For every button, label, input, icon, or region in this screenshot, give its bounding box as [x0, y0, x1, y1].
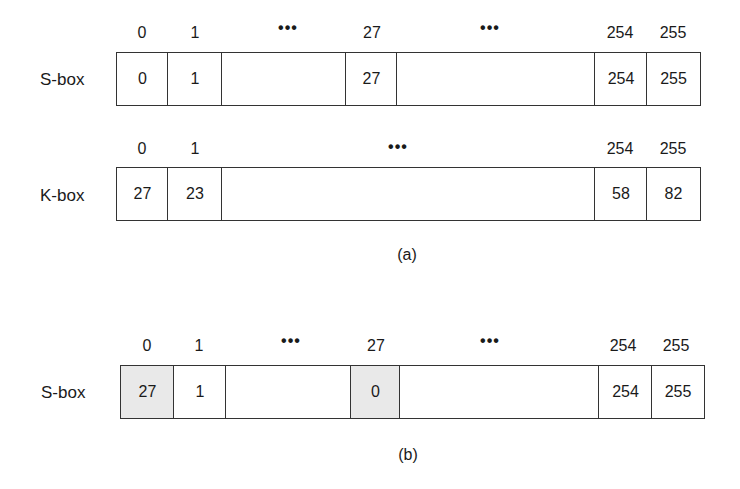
caption-b: (b): [388, 446, 428, 464]
sbox-cell-gap: [221, 52, 347, 106]
sbox-label: S-box: [41, 383, 85, 403]
kbox-cell-254: 58: [594, 167, 648, 221]
sbox-cell-0: 0: [116, 52, 169, 106]
sbox-index-0: 0: [117, 24, 167, 42]
ellipsis-icon: •••: [263, 20, 313, 36]
sbox-cell-27-swapped: 0: [350, 365, 401, 419]
sbox-index-27: 27: [347, 24, 397, 42]
caption-a: (a): [387, 246, 427, 264]
ellipsis-icon: •••: [373, 139, 423, 155]
sbox-cell-1: 1: [173, 365, 227, 419]
sbox-cell-gap: [225, 365, 352, 419]
sbox-cell-255: 255: [651, 365, 705, 419]
sbox-index-1: 1: [174, 337, 224, 355]
sbox-cell-0-swapped: 27: [120, 365, 175, 419]
kbox-index-1: 1: [170, 140, 220, 158]
ellipsis-icon: •••: [465, 333, 515, 349]
sbox-index-255: 255: [648, 24, 698, 42]
sbox-cell-27: 27: [345, 52, 398, 106]
kbox-index-0: 0: [117, 140, 167, 158]
sbox-cell-254: 254: [598, 365, 653, 419]
sbox-index-0: 0: [122, 337, 172, 355]
sbox-index-254: 254: [595, 24, 645, 42]
sbox-cell-254: 254: [594, 52, 648, 106]
sbox-cell-255: 255: [646, 52, 701, 106]
sbox-label: S-box: [40, 70, 84, 90]
kbox-index-255: 255: [648, 140, 698, 158]
sbox-index-1: 1: [170, 24, 220, 42]
sbox-cell-gap: [399, 365, 600, 419]
kbox-cell-255: 82: [646, 167, 701, 221]
kbox-cell-1: 23: [167, 167, 223, 221]
kbox-cell-gap: [221, 167, 596, 221]
kbox-cell-0: 27: [116, 167, 169, 221]
kbox-label: K-box: [40, 186, 84, 206]
sbox-index-255: 255: [651, 337, 701, 355]
sbox-cell-1: 1: [167, 52, 223, 106]
sbox-index-254: 254: [598, 337, 648, 355]
ellipsis-icon: •••: [266, 333, 316, 349]
sbox-index-27: 27: [351, 337, 401, 355]
kbox-index-254: 254: [595, 140, 645, 158]
ellipsis-icon: •••: [465, 20, 515, 36]
sbox-cell-gap: [396, 52, 596, 106]
